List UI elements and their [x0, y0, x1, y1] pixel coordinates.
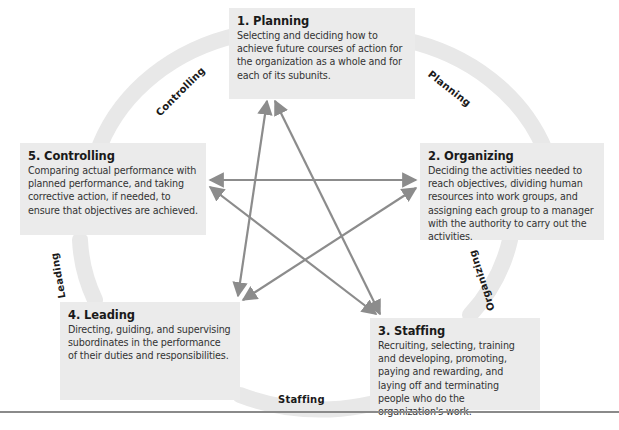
function-title-organizing: 2. Organizing — [428, 149, 596, 163]
bottom-rule-divider — [0, 411, 619, 413]
function-box-organizing: 2. Organizing Deciding the activities ne… — [420, 143, 604, 240]
function-box-controlling: 5. Controlling Comparing actual performa… — [20, 143, 206, 235]
arrow-controlling-staffing — [210, 187, 376, 314]
management-functions-diagram: Controlling Planning Organizing Staffing… — [0, 0, 619, 430]
function-title-leading: 4. Leading — [68, 308, 232, 322]
function-title-controlling: 5. Controlling — [28, 149, 198, 163]
arrow-planning-staffing — [275, 101, 380, 314]
function-desc-planning: Selecting and deciding how to achieve fu… — [237, 29, 407, 82]
star-arrows — [210, 101, 416, 314]
function-box-leading: 4. Leading Directing, guiding, and super… — [60, 302, 240, 400]
arrow-planning-leading — [238, 101, 267, 296]
function-desc-organizing: Deciding the activities needed to reach … — [428, 164, 596, 243]
cycle-arc-planning — [405, 40, 545, 150]
function-box-planning: 1. Planning Selecting and deciding how t… — [229, 8, 415, 99]
function-title-staffing: 3. Staffing — [378, 324, 532, 338]
function-box-staffing: 3. Staffing Recruiting, selecting, train… — [370, 318, 540, 410]
function-desc-leading: Directing, guiding, and supervising subo… — [68, 323, 232, 363]
cycle-label-staffing: Staffing — [278, 394, 325, 405]
cycle-arc-controlling — [100, 35, 238, 145]
arrow-leading-organizing — [243, 188, 416, 300]
cycle-arc-leading — [80, 240, 95, 300]
function-title-planning: 1. Planning — [237, 14, 407, 28]
function-desc-staffing: Recruiting, selecting, training and deve… — [378, 339, 532, 418]
function-desc-controlling: Comparing actual performance with planne… — [28, 164, 198, 217]
